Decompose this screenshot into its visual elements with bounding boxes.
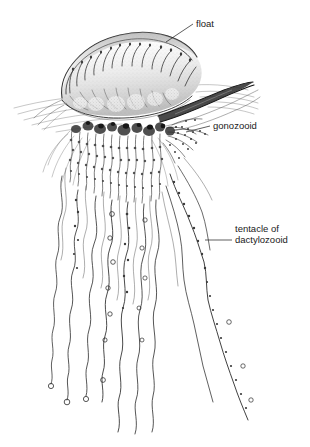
label-tentacle-line1: tentacle of (235, 223, 279, 234)
physalia-illustration: float gonozooid tentacle of dactylozooid (0, 0, 310, 447)
label-gonozooid: gonozooid (213, 120, 257, 131)
label-tentacle-line2: dactylozooid (235, 234, 288, 245)
label-float: float (196, 18, 214, 29)
